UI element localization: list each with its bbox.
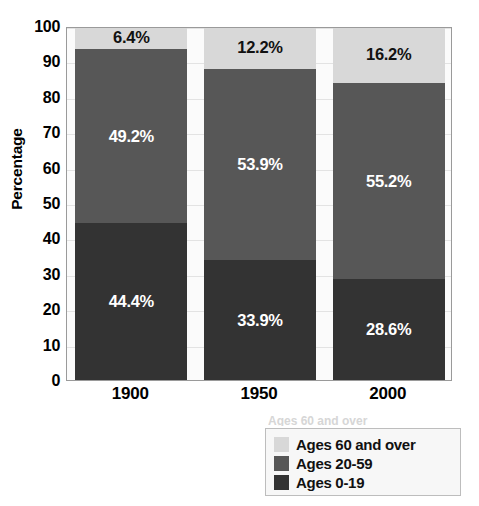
- legend-swatch: [274, 475, 289, 490]
- x-axis-tick-labels: 190019502000: [66, 384, 452, 410]
- y-tick-label: 90: [14, 53, 60, 71]
- legend-item[interactable]: Ages 0-19: [274, 473, 460, 491]
- bar-segment-label: 44.4%: [109, 293, 154, 310]
- legend-ghost-artifact: Ages 60 and over: [268, 414, 458, 426]
- legend-label: Ages 60 and over: [296, 436, 415, 453]
- bar-segment-label: 28.6%: [366, 321, 411, 338]
- legend-label: Ages 20-59: [296, 455, 372, 472]
- bar-segment[interactable]: 53.9%: [204, 69, 316, 260]
- plot-area: 44.4%49.2%6.4%33.9%53.9%12.2%28.6%55.2%1…: [66, 27, 452, 381]
- bar-segment-label: 53.9%: [237, 156, 282, 173]
- bar-segment-label: 33.9%: [237, 312, 282, 329]
- y-tick-label: 20: [14, 301, 60, 319]
- chart-legend: Ages 60 and overAges 20-59Ages 0-19: [265, 428, 461, 496]
- x-tick-label: 1950: [199, 384, 319, 404]
- legend-swatch: [274, 437, 289, 452]
- bar-segment-label: 6.4%: [113, 29, 149, 46]
- legend-swatch: [274, 456, 289, 471]
- bar-segment[interactable]: 55.2%: [333, 83, 445, 278]
- bar-segment[interactable]: 12.2%: [204, 27, 316, 69]
- bar-segment[interactable]: 44.4%: [75, 223, 187, 380]
- bar-segment[interactable]: 6.4%: [75, 27, 187, 49]
- legend-label: Ages 0-19: [296, 474, 364, 491]
- bar-column[interactable]: 28.6%55.2%16.2%: [333, 27, 445, 380]
- legend-item[interactable]: Ages 20-59: [274, 454, 460, 472]
- y-tick-label: 60: [14, 160, 60, 178]
- y-tick-label: 30: [14, 266, 60, 284]
- y-tick-label: 100: [14, 18, 60, 36]
- chart-title: [0, 0, 479, 3]
- bar-segment-label: 49.2%: [109, 128, 154, 145]
- bar-segment-label: 16.2%: [366, 46, 411, 63]
- bar-segment[interactable]: 33.9%: [204, 260, 316, 380]
- x-tick-label: 1900: [70, 384, 190, 404]
- bar-segment[interactable]: 28.6%: [333, 279, 445, 380]
- bar-segment-label: 55.2%: [366, 173, 411, 190]
- bar-segment-label: 12.2%: [237, 39, 282, 56]
- bar-column[interactable]: 33.9%53.9%12.2%: [204, 27, 316, 380]
- x-tick-label: 2000: [328, 384, 448, 404]
- y-axis-tick-labels: 0102030405060708090100: [14, 27, 60, 381]
- legend-item[interactable]: Ages 60 and over: [274, 435, 460, 453]
- bar-segment[interactable]: 16.2%: [333, 27, 445, 83]
- bars-layer: 44.4%49.2%6.4%33.9%53.9%12.2%28.6%55.2%1…: [67, 28, 451, 380]
- bar-column[interactable]: 44.4%49.2%6.4%: [75, 27, 187, 380]
- y-tick-label: 0: [14, 372, 60, 390]
- y-tick-label: 40: [14, 230, 60, 248]
- bar-segment[interactable]: 49.2%: [75, 49, 187, 223]
- y-tick-label: 50: [14, 195, 60, 213]
- y-tick-label: 10: [14, 337, 60, 355]
- y-tick-label: 70: [14, 124, 60, 142]
- y-tick-label: 80: [14, 89, 60, 107]
